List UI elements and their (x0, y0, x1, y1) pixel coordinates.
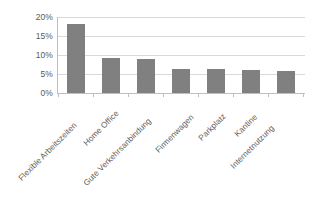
x-tick-3 (163, 94, 164, 97)
y-tick-label-10: 10% (7, 51, 53, 60)
category-label-kantine: Kantine (233, 112, 259, 138)
category-label-gute-verkehrsanbindung: Gute Verkehrsanbindung (82, 116, 153, 187)
bar-flexible-arbeitszeiten (67, 24, 85, 93)
bar-home-office (102, 58, 120, 93)
x-tick-4 (198, 94, 199, 97)
x-tick-6 (268, 94, 269, 97)
y-tick-label-0: 0% (7, 89, 53, 98)
x-tick-7 (303, 94, 304, 97)
category-label-internetnutzung: Internetnutzung (229, 124, 276, 171)
y-tick-label-5: 5% (7, 70, 53, 79)
x-tick-2 (128, 94, 129, 97)
bar-gute-verkehrsanbindung (137, 59, 155, 93)
x-tick-5 (233, 94, 234, 97)
bar-chart: 20% 15% 10% 5% 0% Flexible Arbeitszeiten… (0, 0, 318, 217)
category-label-home-office: Home Office (82, 109, 121, 148)
bar-kantine (242, 70, 260, 93)
bars-layer (57, 17, 305, 94)
category-label-parkplatz: Parkplatz (197, 112, 228, 143)
y-tick-label-15: 15% (7, 32, 53, 41)
x-tick-0 (58, 94, 59, 97)
y-axis-tick-labels: 20% 15% 10% 5% 0% (0, 0, 53, 217)
y-tick-label-20: 20% (7, 13, 53, 22)
x-tick-1 (93, 94, 94, 97)
bar-parkplatz (207, 69, 225, 93)
category-label-firmenwagen: Firmenwagen (154, 113, 196, 155)
bar-firmenwagen (172, 69, 190, 93)
bar-internetnutzung (277, 71, 295, 93)
